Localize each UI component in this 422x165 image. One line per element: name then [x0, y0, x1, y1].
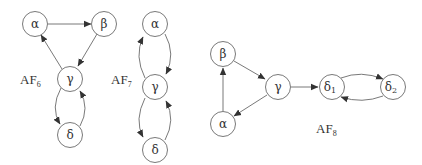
node-gamma: γ — [58, 67, 83, 92]
edge-gamma-delta — [139, 98, 145, 137]
node-gamma: γ — [143, 75, 168, 100]
svg-text:β: β — [220, 47, 227, 61]
svg-text:δ: δ — [151, 143, 158, 157]
node-delta: δ — [58, 123, 83, 148]
edge-delta2-delta1 — [341, 96, 383, 100]
node-delta2: δ2 — [381, 75, 406, 100]
node-delta: δ — [143, 138, 168, 163]
node-delta1: δ1 — [320, 75, 345, 100]
edge-gamma-delta — [55, 88, 61, 124]
svg-text:γ: γ — [274, 80, 281, 94]
svg-text:β: β — [101, 17, 108, 31]
edge-delta-gamma — [165, 101, 171, 140]
framework-label: AF7 — [111, 72, 132, 89]
svg-text:γ: γ — [66, 72, 73, 86]
svg-text:α: α — [151, 17, 159, 31]
node-beta: β — [92, 12, 117, 37]
edge-gamma-alpha — [41, 35, 62, 69]
edge-delta1-delta2 — [341, 74, 383, 79]
framework-label: AF8 — [316, 121, 337, 138]
node-beta: β — [211, 42, 236, 67]
framework-af7: α γ δ AF7 — [111, 12, 171, 163]
node-alpha: α — [23, 12, 48, 37]
node-alpha: α — [211, 112, 236, 137]
svg-text:γ: γ — [151, 80, 158, 94]
framework-af6: α β γ δ AF6 — [20, 12, 117, 148]
edge-gamma-alpha — [139, 37, 145, 78]
edge-beta-gamma — [78, 34, 97, 66]
svg-text:α: α — [219, 117, 227, 131]
edge-alpha-gamma — [165, 34, 171, 74]
edge-delta-gamma — [80, 91, 85, 126]
argumentation-frameworks-diagram: α β γ δ AF6 α γ δ — [0, 0, 422, 165]
svg-text:δ: δ — [66, 128, 73, 142]
framework-af8: β γ α δ1 δ2 AF8 — [211, 42, 406, 139]
svg-text:α: α — [31, 17, 39, 31]
node-alpha: α — [143, 12, 168, 37]
edge-beta-gamma — [234, 61, 265, 79]
framework-label: AF6 — [20, 72, 41, 89]
node-gamma: γ — [266, 75, 291, 100]
edge-gamma-alpha — [234, 95, 267, 116]
